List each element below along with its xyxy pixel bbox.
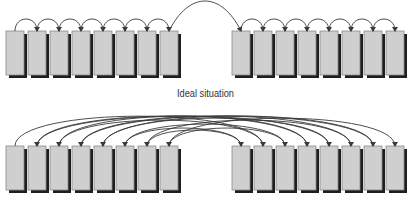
- caption-ideal-situation: Ideal situation: [25, 87, 387, 99]
- disk-block: [138, 31, 156, 75]
- disk-block: [50, 31, 68, 75]
- disk-blocks: [6, 31, 407, 193]
- link-arrow: [59, 19, 81, 31]
- link-arrow: [169, 128, 285, 146]
- disk-block: [160, 146, 178, 190]
- disk-block: [364, 31, 382, 75]
- disk-block: [72, 31, 90, 75]
- disk-block: [138, 146, 156, 190]
- disk-block: [298, 31, 316, 75]
- link-arrow: [351, 19, 373, 31]
- link-arrow: [373, 19, 395, 31]
- link-arrow: [125, 19, 147, 31]
- disk-block: [116, 146, 134, 190]
- disk-block: [28, 146, 46, 190]
- disk-block: [386, 146, 404, 190]
- disk-block: [276, 146, 294, 190]
- link-arrow: [263, 19, 285, 31]
- disk-block: [232, 146, 250, 190]
- disk-block: [298, 146, 316, 190]
- link-arrow: [329, 19, 351, 31]
- disk-block: [342, 146, 360, 190]
- disk-block: [116, 31, 134, 75]
- disk-block: [72, 146, 90, 190]
- link-arrow: [37, 19, 59, 31]
- disk-block: [160, 31, 178, 75]
- link-arrow: [81, 19, 103, 31]
- disk-block: [50, 146, 68, 190]
- disk-block: [6, 146, 24, 190]
- disk-block: [6, 31, 24, 75]
- disk-block: [320, 31, 338, 75]
- disk-block: [342, 31, 360, 75]
- disk-block: [386, 31, 404, 75]
- disk-block: [254, 146, 272, 190]
- disk-block: [254, 31, 272, 75]
- link-arrow: [307, 19, 329, 31]
- disk-block: [94, 31, 112, 75]
- link-arrow: [285, 19, 307, 31]
- link-arrow: [15, 19, 37, 31]
- link-arrow: [59, 120, 263, 146]
- disk-block: [320, 146, 338, 190]
- link-arrow: [147, 120, 351, 146]
- link-arrow: [147, 19, 169, 31]
- disk-block: [94, 146, 112, 190]
- link-arrow: [125, 124, 285, 146]
- disk-block: [364, 146, 382, 190]
- disk-block: [28, 31, 46, 75]
- link-arrow: [103, 19, 125, 31]
- diagram-canvas: [0, 0, 411, 202]
- disk-block: [232, 31, 250, 75]
- link-arrow: [169, 1, 241, 31]
- link-arrow: [241, 19, 263, 31]
- disk-block: [276, 31, 294, 75]
